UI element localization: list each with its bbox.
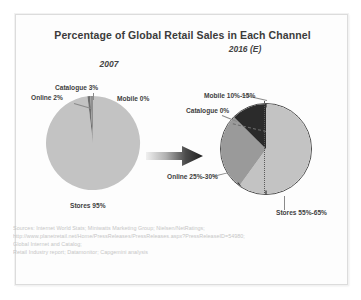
right-arrow-gradient-icon xyxy=(146,145,204,167)
pie-label-mobile-2016: Mobile 10%-15% xyxy=(204,92,255,99)
sources-line-4: Retail Industry report; Datamonitor; Cap… xyxy=(13,248,323,256)
pie-label-online-2016: Online 25%-30% xyxy=(167,173,218,180)
chart-caption-2016: 2016 (E) xyxy=(190,44,300,54)
leader-line-catalogue-2007 xyxy=(93,93,94,100)
pie-label-stores-2016: Stores 55%-65% xyxy=(276,209,327,216)
page-title: Percentage of Global Retail Sales in Eac… xyxy=(16,29,349,41)
pie-label-catalogue-2007: Catalogue 3% xyxy=(55,84,98,91)
sources-note: Sources: Internet World Stats; Miniwatts… xyxy=(13,224,323,256)
sources-line-3: Global Internet and Catalog; xyxy=(13,240,323,248)
pie-label-online-2007: Online 2% xyxy=(31,94,63,101)
leader-line-stores-2016 xyxy=(284,196,285,210)
pie-chart-2016 xyxy=(220,103,312,195)
pie-chart-2007 xyxy=(45,95,141,191)
pie-label-stores-2007: Stores 95% xyxy=(70,202,106,209)
sources-line-1: Sources: Internet World Stats; Miniwatts… xyxy=(13,224,323,232)
chart-caption-2007: 2007 xyxy=(54,59,164,69)
pie-label-catalogue-2016: Catalogue 0% xyxy=(186,107,229,114)
sources-line-2: http://www.planetretail.net/Home/PressRe… xyxy=(13,232,323,240)
stores-boundary-divider xyxy=(264,101,265,195)
pie-label-mobile-2007: Mobile 0% xyxy=(117,95,149,102)
